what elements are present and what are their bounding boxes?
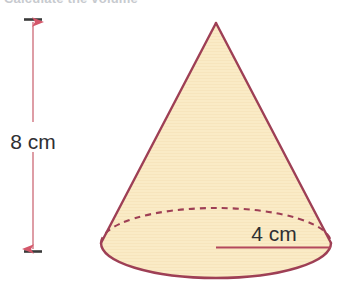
height-label: 8 cm [10,130,56,153]
height-dimension: 8 cm [10,20,56,252]
cone-figure-container: Calculate the volume [0,0,362,287]
radius-label: 4 cm [251,222,297,245]
cone-diagram-svg: 8 cm 4 cm [0,0,362,287]
